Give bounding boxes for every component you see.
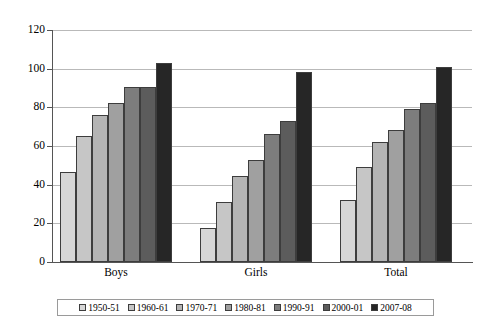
category-label-total: Total (320, 266, 472, 278)
y-tick-label-120: 120 (5, 24, 45, 36)
bars-container (340, 30, 452, 262)
x-axis-line (52, 262, 473, 263)
legend-item-1950-51[interactable]: 1950-51 (79, 303, 120, 313)
legend-label: 1970-71 (185, 303, 217, 313)
legend-item-2007-08[interactable]: 2007-08 (371, 303, 412, 313)
bar-total-1970-71[interactable] (372, 142, 388, 262)
category-label-girls: Girls (180, 266, 332, 278)
bar-boys-2000-01[interactable] (140, 87, 156, 262)
bar-boys-1960-61[interactable] (76, 136, 92, 262)
legend-label: 1960-61 (137, 303, 169, 313)
legend-label: 1950-51 (88, 303, 120, 313)
bar-total-1990-91[interactable] (404, 109, 420, 262)
category-label-boys: Boys (40, 266, 192, 278)
bar-girls-1970-71[interactable] (232, 176, 248, 262)
bar-boys-1950-51[interactable] (60, 172, 76, 262)
bar-chart: 020406080100120 BoysGirlsTotal 1950-5119… (0, 0, 490, 326)
bar-girls-2000-01[interactable] (280, 121, 296, 262)
bar-group-girls (200, 30, 312, 262)
legend-swatch-icon-1960-61 (128, 304, 135, 311)
bar-total-1950-51[interactable] (340, 200, 356, 262)
bar-boys-1970-71[interactable] (92, 115, 108, 262)
legend-item-1980-81[interactable]: 1980-81 (225, 303, 266, 313)
bars-container (60, 30, 172, 262)
y-tick-label-80: 80 (5, 101, 45, 113)
bar-group-total (340, 30, 452, 262)
bar-boys-1980-81[interactable] (108, 103, 124, 263)
bar-girls-1950-51[interactable] (200, 228, 216, 262)
bar-total-2007-08[interactable] (436, 67, 452, 262)
bar-girls-1990-91[interactable] (264, 134, 280, 262)
bars-container (200, 30, 312, 262)
y-tick-label-100: 100 (5, 63, 45, 75)
bar-boys-1990-91[interactable] (124, 87, 140, 262)
y-tick-label-20: 20 (5, 217, 45, 229)
bar-total-2000-01[interactable] (420, 103, 436, 262)
chart-legend: 1950-511960-611970-711980-811990-912000-… (57, 299, 434, 316)
bar-girls-1960-61[interactable] (216, 202, 232, 262)
legend-swatch-icon-1970-71 (176, 304, 183, 311)
legend-swatch-icon-1980-81 (225, 304, 232, 311)
y-tick-label-0: 0 (5, 256, 45, 268)
legend-label: 1980-81 (234, 303, 266, 313)
y-tick-label-40: 40 (5, 179, 45, 191)
plot-wrapper: 020406080100120 BoysGirlsTotal (0, 0, 490, 292)
bar-boys-2007-08[interactable] (156, 63, 172, 262)
legend-label: 1990-91 (283, 303, 315, 313)
legend-label: 2007-08 (380, 303, 412, 313)
y-tick-label-60: 60 (5, 140, 45, 152)
bar-girls-1980-81[interactable] (248, 160, 264, 262)
bar-girls-2007-08[interactable] (296, 72, 312, 262)
legend-label: 2000-01 (332, 303, 364, 313)
bar-group-boys (60, 30, 172, 262)
bar-total-1960-61[interactable] (356, 167, 372, 262)
legend-item-1970-71[interactable]: 1970-71 (176, 303, 217, 313)
legend-item-1990-91[interactable]: 1990-91 (274, 303, 315, 313)
legend-swatch-icon-2007-08 (371, 304, 378, 311)
legend-swatch-icon-1950-51 (79, 304, 86, 311)
y-axis-labels: 020406080100120 (0, 0, 45, 292)
legend-swatch-icon-1990-91 (274, 304, 281, 311)
bar-total-1980-81[interactable] (388, 130, 404, 262)
legend-item-1960-61[interactable]: 1960-61 (128, 303, 169, 313)
legend-item-2000-01[interactable]: 2000-01 (323, 303, 364, 313)
legend-swatch-icon-2000-01 (323, 304, 330, 311)
y-axis-line (52, 30, 53, 263)
